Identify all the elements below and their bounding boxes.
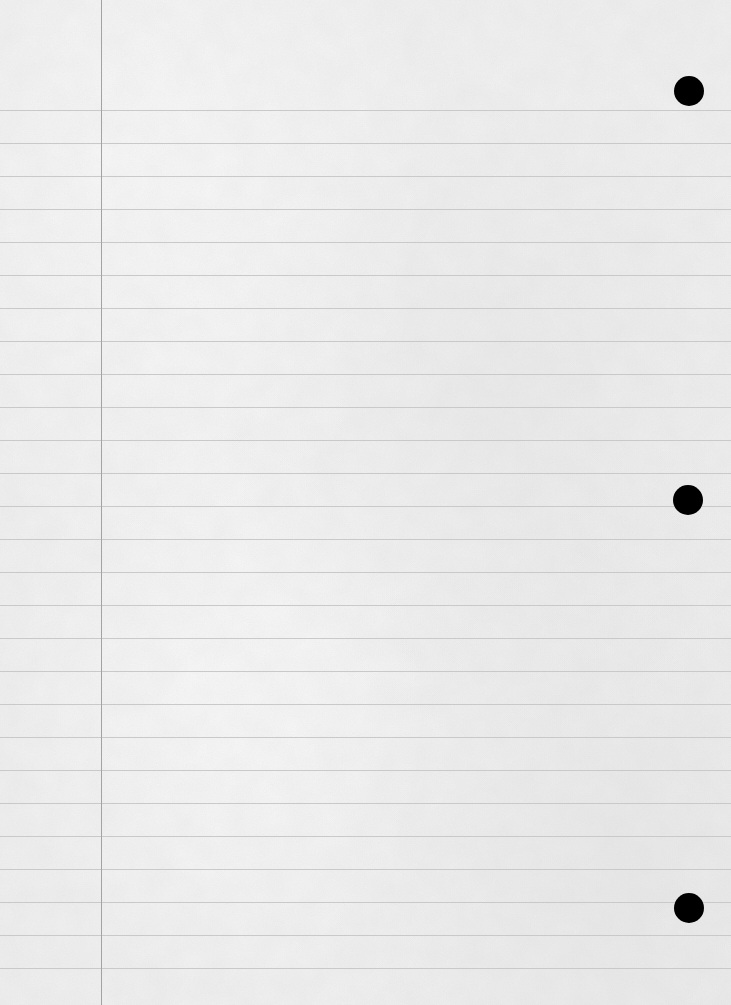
ruled-line bbox=[0, 110, 731, 111]
ruled-line bbox=[0, 308, 731, 309]
ruled-line bbox=[0, 935, 731, 936]
ruled-line bbox=[0, 869, 731, 870]
ruled-line bbox=[0, 242, 731, 243]
ruled-line bbox=[0, 836, 731, 837]
ruled-line bbox=[0, 440, 731, 441]
ruled-line bbox=[0, 902, 731, 903]
binder-hole bbox=[674, 893, 704, 923]
ruled-line bbox=[0, 671, 731, 672]
ruled-line bbox=[0, 638, 731, 639]
ruled-line bbox=[0, 176, 731, 177]
ruled-line bbox=[0, 374, 731, 375]
ruled-line bbox=[0, 143, 731, 144]
ruled-line bbox=[0, 407, 731, 408]
ruled-line bbox=[0, 473, 731, 474]
binder-hole bbox=[673, 485, 703, 515]
ruled-line bbox=[0, 506, 731, 507]
notebook-page bbox=[0, 0, 731, 1005]
ruled-line bbox=[0, 770, 731, 771]
ruled-line bbox=[0, 572, 731, 573]
ruled-line bbox=[0, 209, 731, 210]
margin-line bbox=[101, 0, 102, 1005]
ruled-line bbox=[0, 737, 731, 738]
ruled-line bbox=[0, 275, 731, 276]
ruled-line bbox=[0, 968, 731, 969]
paper-texture bbox=[0, 0, 731, 1005]
binder-hole bbox=[674, 76, 704, 106]
ruled-line bbox=[0, 341, 731, 342]
ruled-line bbox=[0, 803, 731, 804]
ruled-line bbox=[0, 605, 731, 606]
ruled-line bbox=[0, 539, 731, 540]
ruled-line bbox=[0, 704, 731, 705]
